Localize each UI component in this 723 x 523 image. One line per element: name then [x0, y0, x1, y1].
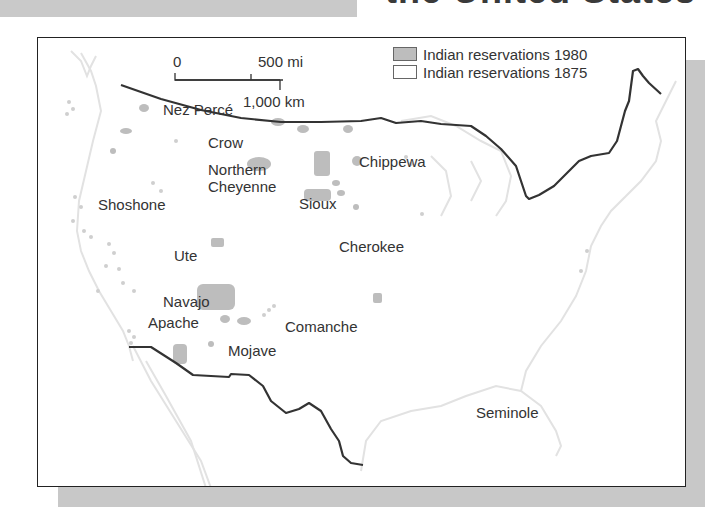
label-seminole: Seminole: [476, 404, 539, 421]
scale-miles: 500 mi: [258, 53, 303, 70]
scale-bar: [173, 72, 283, 92]
label-nez-perce: Nez Percé: [163, 101, 233, 118]
legend: Indian reservations 1980 Indian reservat…: [393, 45, 587, 81]
legend-label-1875: Indian reservations 1875: [423, 64, 587, 81]
label-cherokee: Cherokee: [339, 238, 404, 255]
label-navajo: Navajo: [163, 293, 210, 310]
label-mojave: Mojave: [228, 342, 276, 359]
frame-shadow-right: [686, 60, 705, 507]
us-map: [37, 37, 686, 487]
label-northern: Northern: [208, 161, 266, 178]
swatch-1875: [393, 65, 417, 79]
page-title: the United States: [385, 0, 696, 12]
small-reservations: [65, 100, 589, 345]
label-comanche: Comanche: [285, 318, 358, 335]
swatch-1980: [393, 47, 417, 61]
frame-shadow-bottom: [58, 487, 705, 507]
scale-km: 1,000 km: [243, 93, 305, 110]
label-cheyenne: Cheyenne: [208, 178, 276, 195]
label-ute: Ute: [174, 247, 197, 264]
legend-item-1980: Indian reservations 1980: [393, 45, 587, 63]
scale-zero: 0: [173, 53, 181, 70]
label-apache: Apache: [148, 314, 199, 331]
label-chippewa: Chippewa: [359, 153, 426, 170]
label-crow: Crow: [208, 134, 243, 151]
label-shoshone: Shoshone: [98, 196, 166, 213]
map-frame: 0 500 mi 1,000 km Indian reservations 19…: [37, 37, 686, 487]
legend-item-1875: Indian reservations 1875: [393, 63, 587, 81]
coastline: [71, 51, 676, 487]
international-border: [121, 69, 661, 465]
header-gray-bar: [0, 0, 357, 17]
label-sioux: Sioux: [299, 195, 337, 212]
legend-label-1980: Indian reservations 1980: [423, 46, 587, 63]
